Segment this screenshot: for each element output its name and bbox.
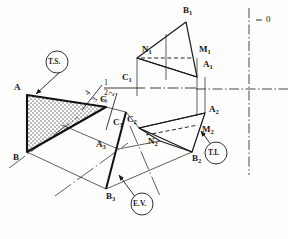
label-point-a1: A1 [203, 60, 213, 69]
label-point-b3: B3 [106, 192, 115, 201]
tl-callout-label: T.L [208, 149, 219, 157]
label-point-a2: A2 [209, 105, 219, 114]
label-point-b2: B2 [192, 154, 201, 163]
label-point-c1: C1 [122, 73, 132, 82]
aux-view-2-triangle [139, 113, 205, 152]
label-point-m2: M2 [202, 125, 214, 134]
ev-callout-label: E.V. [133, 200, 146, 208]
edge-n2-b2 [160, 141, 192, 152]
leader-ev [119, 175, 136, 198]
origin-label: 0 [266, 15, 271, 24]
top-view-triangle-abc [27, 95, 106, 152]
label-point-n1: N1 [142, 45, 152, 54]
annotation-leaders [36, 72, 212, 198]
triangle-a2-b2-c2 [139, 113, 205, 152]
triangle-abc-true-size-face [27, 95, 106, 152]
edge-c1-a1 [137, 58, 197, 77]
technical-drawing-page: A B C B1 N1 M1 A1 C1 A2 M2 N2 B2 C2 A3 B… [0, 0, 288, 239]
projector-guide-diagonal-upper [55, 143, 128, 196]
fold-label-1: 1 [104, 79, 108, 87]
annotation-circles [46, 51, 227, 215]
ts-callout-label: T.S. [48, 58, 60, 66]
projector-a-a3 [62, 125, 118, 149]
label-point-b: B [13, 153, 19, 162]
projector-b-b3 [27, 152, 106, 189]
link-b3-b2 [106, 152, 192, 189]
label-point-a3: A3 [96, 140, 106, 149]
label-point-m1: M1 [199, 45, 211, 54]
label-point-c3: C3 [113, 118, 123, 127]
leader-ts [36, 72, 60, 94]
label-point-b1: B1 [183, 6, 192, 15]
label-point-a: A [14, 83, 21, 92]
line-n2-m2 [146, 125, 198, 135]
label-point-n2: N2 [148, 137, 158, 146]
label-point-c2: C2 [127, 115, 137, 124]
projector-c-c3 [106, 107, 126, 112]
